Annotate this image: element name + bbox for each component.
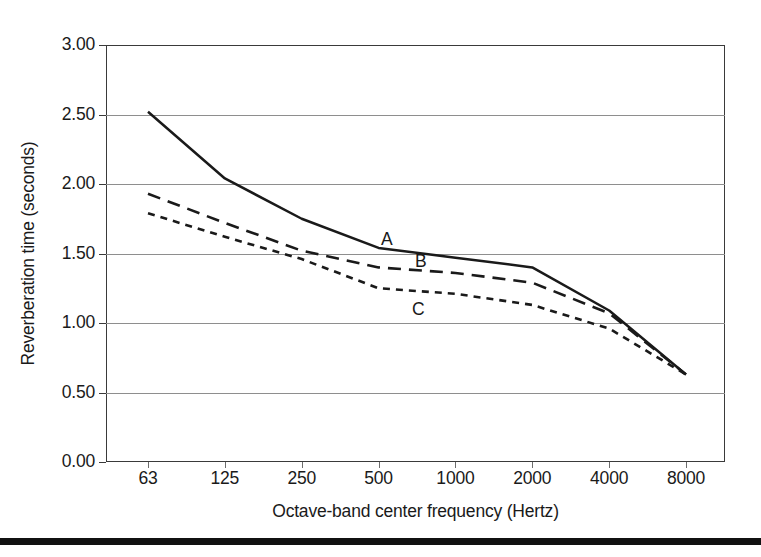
y-axis-title: Reverberation time (seconds) [18,45,39,462]
series-label-b: B [415,253,427,271]
chart-figure: 3.002.502.001.501.000.500.00 63125250500… [0,0,761,557]
series-line-c [148,213,686,374]
chart-series-layer [0,0,761,557]
x-axis-title: Octave-band center frequency (Hertz) [106,501,725,522]
y-axis-title-wrapper: Reverberation time (seconds) [18,45,40,462]
bottom-divider-rule [0,538,761,545]
series-label-c: C [412,301,425,319]
series-line-b [148,194,686,375]
series-label-a: A [381,231,393,249]
series-line-a [148,112,686,375]
